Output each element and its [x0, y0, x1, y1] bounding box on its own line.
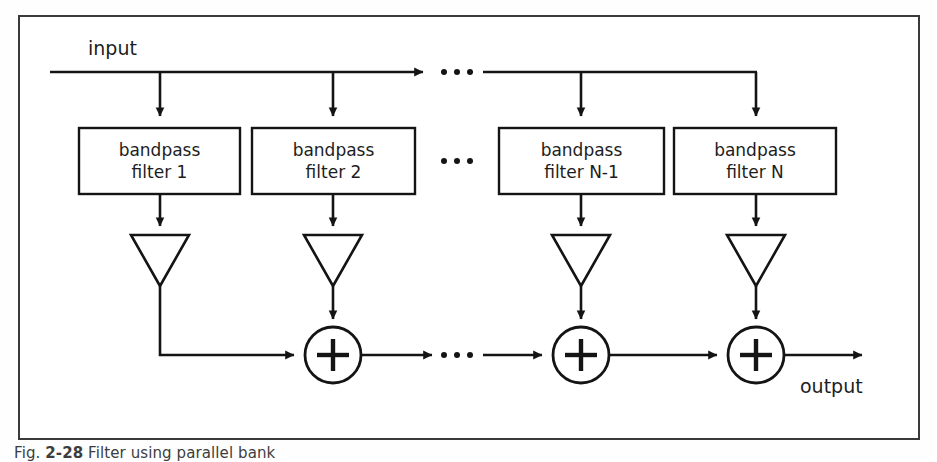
ellipsis-dot	[467, 69, 473, 75]
ellipsis-input-bus	[441, 69, 473, 75]
bandpass-filter-n-label: bandpass filter N	[674, 140, 836, 184]
ellipsis-dot	[467, 352, 473, 358]
ellipsis-dot	[441, 69, 447, 75]
bandpass-filter-1-label: bandpass filter 1	[79, 140, 240, 184]
ellipsis-dot	[454, 69, 460, 75]
ellipsis-dot	[454, 158, 460, 164]
caption-number: 2-28	[45, 444, 83, 462]
figure-frame	[18, 15, 920, 440]
bandpass-filter-n-label-line2: filter N	[674, 162, 836, 184]
bandpass-filter-n-1-label-line1: bandpass	[499, 140, 664, 162]
bandpass-filter-n-label-line1: bandpass	[674, 140, 836, 162]
ellipsis-dot	[441, 158, 447, 164]
bandpass-filter-1-label-line2: filter 1	[79, 162, 240, 184]
ellipsis-dot	[454, 352, 460, 358]
bandpass-filter-n-1-label: bandpass filter N-1	[499, 140, 664, 184]
bandpass-filter-1-label-line1: bandpass	[79, 140, 240, 162]
bandpass-filter-n-1-label-line2: filter N-1	[499, 162, 664, 184]
ellipsis-dot	[467, 158, 473, 164]
figure-caption: Fig. 2-28 Filter using parallel bank	[14, 444, 275, 462]
output-label: output	[800, 376, 863, 397]
caption-prefix: Fig.	[14, 444, 40, 462]
caption-text: Filter using parallel bank	[88, 444, 275, 462]
bandpass-filter-2-label-line2: filter 2	[252, 162, 415, 184]
ellipsis-blocks	[441, 158, 473, 164]
ellipsis-dot	[441, 352, 447, 358]
input-label: input	[88, 38, 137, 59]
bandpass-filter-2-label-line1: bandpass	[252, 140, 415, 162]
ellipsis-sum-bus	[441, 352, 473, 358]
bandpass-filter-2-label: bandpass filter 2	[252, 140, 415, 184]
